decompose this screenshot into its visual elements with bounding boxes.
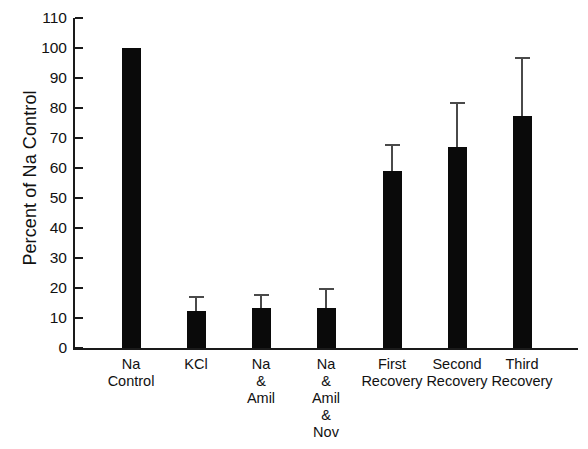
y-tick-10 <box>75 317 83 319</box>
error-bar-stem <box>325 288 327 308</box>
error-bar-cap <box>189 296 204 298</box>
bar <box>317 308 336 349</box>
y-tick-label-50: 50 <box>7 190 67 206</box>
y-tick-60 <box>75 167 83 169</box>
y-tick-80 <box>75 107 83 109</box>
y-axis-line <box>73 18 75 349</box>
error-bar-cap <box>385 144 400 146</box>
error-bar-cap <box>254 294 269 296</box>
y-tick-20 <box>75 287 83 289</box>
y-tick-110 <box>75 17 83 19</box>
error-bar-stem <box>195 296 197 311</box>
x-axis-label-line: Third <box>476 356 568 373</box>
y-tick-40 <box>75 227 83 229</box>
y-tick-label-110: 110 <box>7 10 67 26</box>
bar-chart: Percent of Na Control 110100908070605040… <box>0 0 588 449</box>
bar <box>383 171 402 348</box>
x-axis-label-line: Control <box>85 373 177 390</box>
error-bar-cap <box>319 288 334 290</box>
x-axis-label-line: Nov <box>280 424 372 441</box>
error-bar-stem <box>391 144 393 171</box>
y-tick-label-70: 70 <box>7 130 67 146</box>
y-tick-90 <box>75 77 83 79</box>
bar <box>187 311 206 349</box>
y-axis-title: Percent of Na Control <box>20 48 44 308</box>
y-tick-label-30: 30 <box>7 250 67 266</box>
y-tick-70 <box>75 137 83 139</box>
x-axis-label-line: Recovery <box>476 373 568 390</box>
y-tick-label-80: 80 <box>7 100 67 116</box>
x-axis-line <box>73 348 578 350</box>
error-bar-stem <box>260 294 262 308</box>
y-tick-label-20: 20 <box>7 280 67 296</box>
bar <box>122 48 141 348</box>
y-tick-100 <box>75 47 83 49</box>
error-bar-stem <box>521 57 523 116</box>
y-tick-label-100: 100 <box>7 40 67 56</box>
bar <box>252 308 271 349</box>
y-tick-label-60: 60 <box>7 160 67 176</box>
x-axis-label: ThirdRecovery <box>476 356 568 390</box>
bar <box>448 147 467 348</box>
error-bar-cap <box>450 102 465 104</box>
y-tick-0 <box>75 347 83 349</box>
y-tick-label-0: 0 <box>7 340 67 356</box>
y-tick-label-90: 90 <box>7 70 67 86</box>
x-axis-label-line: & <box>280 407 372 424</box>
error-bar-cap <box>515 57 530 59</box>
y-tick-label-10: 10 <box>7 310 67 326</box>
x-axis-label-line: Amil <box>280 390 372 407</box>
error-bar-stem <box>456 102 458 147</box>
y-tick-50 <box>75 197 83 199</box>
y-tick-30 <box>75 257 83 259</box>
bar <box>513 116 532 349</box>
y-tick-label-40: 40 <box>7 220 67 236</box>
